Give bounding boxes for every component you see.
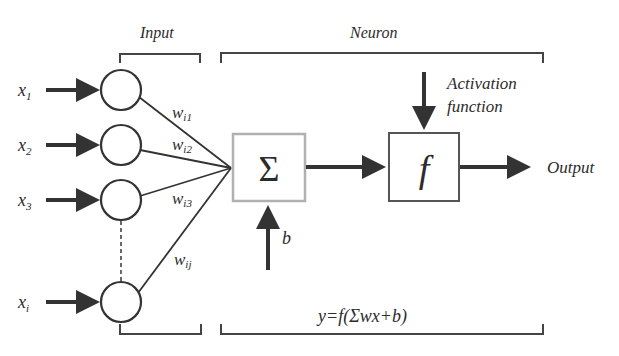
output-label: Output — [547, 158, 596, 177]
neuron-diagram: Input Neuron x1 x2 x3 xi wi1 wi2 wi3 wij… — [0, 0, 619, 356]
neuron-top-bracket — [221, 53, 543, 63]
input-label-x1: x1 — [17, 80, 32, 102]
weight-label-i2: wi2 — [172, 135, 192, 155]
input-label-xi: xi — [17, 292, 29, 314]
bias-label: b — [282, 228, 291, 248]
weight-line-3 — [140, 168, 231, 196]
input-label-x2: x2 — [17, 135, 32, 157]
weight-line-1 — [139, 97, 231, 168]
input-node-1 — [101, 70, 141, 110]
weight-label-ij: wij — [174, 250, 191, 270]
summation-symbol: Σ — [259, 149, 280, 189]
input-section-title: Input — [139, 24, 174, 42]
input-top-bracket — [120, 54, 200, 63]
activation-label-line1: Activation — [446, 74, 517, 93]
weight-label-i1: wi1 — [172, 103, 192, 123]
activation-label-line2: function — [447, 97, 503, 116]
weight-line-i — [138, 168, 231, 293]
input-bottom-bracket — [120, 324, 201, 334]
input-node-i — [101, 282, 141, 322]
neuron-formula: y=f(Σwx+b) — [316, 306, 407, 327]
input-node-2 — [101, 125, 141, 165]
weight-label-i3: wi3 — [172, 189, 192, 209]
neuron-section-title: Neuron — [349, 24, 397, 41]
input-node-3 — [101, 180, 141, 220]
input-label-x3: x3 — [17, 190, 32, 212]
